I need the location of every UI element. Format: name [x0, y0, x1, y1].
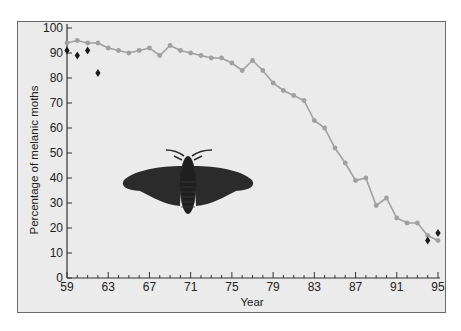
- line-marker: [147, 46, 152, 51]
- x-tick-label: 87: [349, 280, 363, 294]
- moth-antenna-left: [166, 150, 184, 156]
- line-marker: [75, 38, 80, 43]
- x-tick-label: 83: [308, 280, 322, 294]
- line-marker: [85, 41, 90, 46]
- diamond-marker: [75, 52, 80, 60]
- diamond-marker: [85, 47, 90, 55]
- line-marker: [436, 238, 441, 243]
- line-marker: [322, 126, 327, 131]
- y-tick-label: 100: [43, 21, 63, 35]
- moth-body: [180, 156, 196, 214]
- line-marker: [353, 178, 358, 183]
- line-chart: 0102030405060708090100596367717579838791…: [0, 0, 461, 331]
- x-tick-label: 63: [102, 280, 116, 294]
- line-marker: [178, 48, 183, 53]
- line-marker: [415, 221, 420, 226]
- line-marker: [209, 56, 214, 61]
- line-marker: [65, 41, 70, 46]
- line-marker: [157, 53, 162, 58]
- line-marker: [302, 98, 307, 103]
- line-marker: [281, 88, 286, 93]
- line-marker: [188, 51, 193, 56]
- line-marker: [240, 68, 245, 73]
- line-marker: [312, 118, 317, 123]
- line-marker: [168, 43, 173, 48]
- line-marker: [260, 68, 265, 73]
- line-marker: [137, 48, 142, 53]
- diamond-marker: [95, 69, 100, 77]
- x-tick-label: 71: [184, 280, 198, 294]
- diamond-marker: [435, 229, 440, 237]
- y-tick-label: 70: [50, 96, 64, 110]
- x-tick-label: 91: [390, 280, 404, 294]
- line-marker: [116, 48, 121, 53]
- line-marker: [384, 196, 389, 201]
- line-marker: [126, 51, 131, 56]
- series-line: [67, 41, 438, 241]
- data-series: [64, 38, 440, 244]
- line-marker: [219, 56, 224, 61]
- moth-illustration: [123, 150, 253, 214]
- line-marker: [343, 161, 348, 166]
- x-tick-label: 79: [266, 280, 280, 294]
- x-axis-title: Year: [240, 296, 263, 308]
- moth-antenna-right: [192, 150, 212, 156]
- x-tick-label: 67: [143, 280, 157, 294]
- x-tick-label: 59: [60, 280, 74, 294]
- line-marker: [250, 58, 255, 63]
- line-marker: [374, 203, 379, 208]
- line-marker: [96, 41, 101, 46]
- line-marker: [405, 221, 410, 226]
- y-tick-label: 40: [50, 171, 64, 185]
- x-tick-label: 75: [225, 280, 239, 294]
- moth-leg-right: [194, 156, 202, 160]
- diamond-marker: [425, 237, 430, 245]
- y-tick-label: 50: [50, 146, 64, 160]
- y-tick-label: 60: [50, 121, 64, 135]
- moth-leg-left: [174, 156, 182, 160]
- line-marker: [199, 53, 204, 58]
- moth-wing-left: [123, 166, 182, 206]
- moth-wing-right: [194, 166, 253, 206]
- y-tick-label: 30: [50, 196, 64, 210]
- y-axis-title: Percentage of melanic moths: [28, 85, 40, 234]
- axes: 0102030405060708090100596367717579838791…: [43, 21, 445, 294]
- line-marker: [394, 216, 399, 221]
- y-tick-label: 10: [50, 246, 64, 260]
- line-marker: [333, 146, 338, 151]
- line-marker: [106, 46, 111, 51]
- y-tick-label: 20: [50, 221, 64, 235]
- line-marker: [363, 176, 368, 181]
- x-tick-label: 95: [431, 280, 445, 294]
- line-marker: [291, 93, 296, 98]
- line-marker: [271, 81, 276, 86]
- y-tick-label: 90: [50, 46, 64, 60]
- line-marker: [229, 61, 234, 66]
- y-tick-label: 80: [50, 71, 64, 85]
